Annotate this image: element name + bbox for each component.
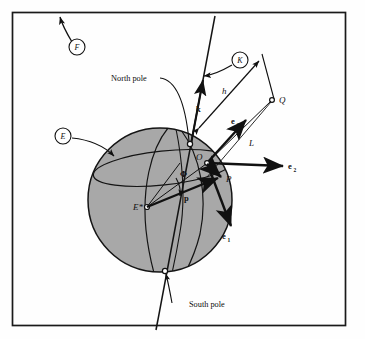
callout-F-leader — [60, 17, 72, 42]
basis-e1-label-group: e 1 — [222, 231, 231, 243]
sphere-body — [88, 128, 232, 272]
distance-h-arrow — [199, 61, 259, 128]
h-tick-upper — [262, 54, 274, 99]
point-P-label: P — [225, 174, 232, 184]
basis-e2-subscript: 2 — [294, 167, 297, 173]
point-E-star-label: E* — [132, 202, 143, 212]
north-pole-label: North pole — [111, 74, 147, 83]
distance-L-label: L — [248, 138, 254, 148]
basis-e1-subscript: 1 — [228, 237, 231, 243]
angle-phi-label: Φ — [180, 169, 187, 179]
south-pole-point — [162, 268, 167, 273]
south-pole-leader — [166, 274, 172, 303]
basis-e3-label: e — [231, 116, 235, 126]
callout-K-label: K — [236, 56, 243, 65]
callout-F-label: F — [74, 43, 80, 52]
point-O-label: O — [196, 152, 203, 162]
south-pole-label: South pole — [189, 300, 225, 309]
basis-e1-label: e — [222, 231, 226, 241]
diagram-svg: F E K North pole South pole O Q P E* k p… — [0, 0, 365, 339]
callout-E-label: E — [60, 132, 66, 141]
vector-p-lower-label: p — [184, 193, 189, 203]
figure-panel: F E K North pole South pole O Q P E* k p… — [0, 0, 365, 339]
basis-e3-subscript: 3 — [237, 122, 240, 128]
callout-K-leader — [204, 65, 232, 76]
basis-vector-e3 — [207, 120, 246, 163]
basis-e2-label-group: e 2 — [288, 161, 297, 173]
point-Q-label: Q — [279, 95, 286, 105]
basis-e3-label-group: e 3 — [231, 116, 240, 128]
north-pole-point — [187, 141, 192, 146]
distance-h-label: h — [222, 86, 227, 96]
vector-k-label: k — [196, 104, 201, 114]
basis-e2-label: e — [288, 161, 292, 171]
